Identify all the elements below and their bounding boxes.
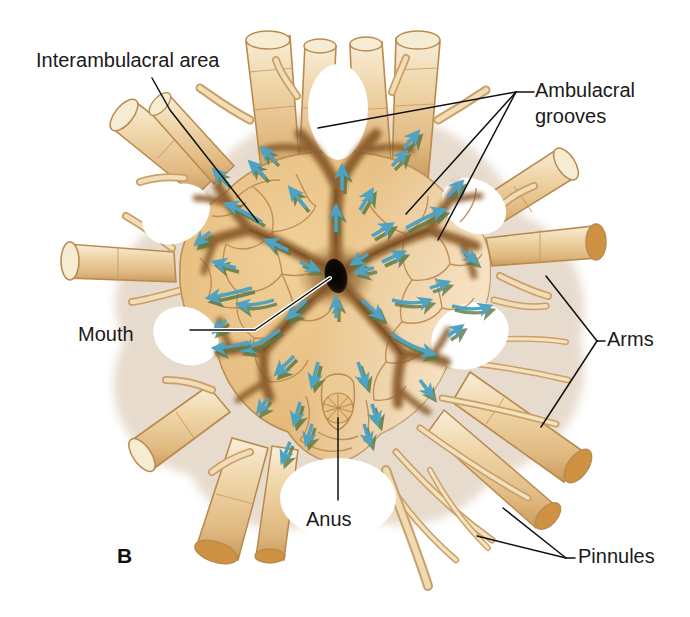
panel-letter: B	[117, 544, 132, 567]
label-anus: Anus	[306, 508, 352, 530]
label-pinnules: Pinnules	[578, 545, 655, 567]
label-ambulacral-grooves-line2: grooves	[535, 105, 606, 127]
label-arms: Arms	[607, 328, 654, 350]
label-interambulacral-area: Interambulacral area	[36, 49, 220, 71]
label-ambulacral-grooves: Ambulacral	[535, 79, 635, 101]
crinoid-oral-surface-figure: Interambulacral area Ambulacral grooves …	[0, 0, 690, 617]
label-mouth: Mouth	[78, 323, 134, 345]
pinnule-left-upper	[140, 177, 184, 182]
